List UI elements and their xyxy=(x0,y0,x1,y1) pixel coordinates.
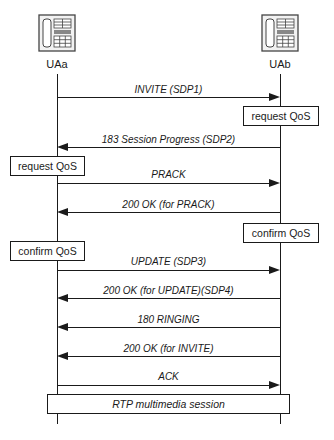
message-label: UPDATE (SDP3) xyxy=(57,256,280,267)
arrowhead-left-icon xyxy=(57,143,68,151)
message-label: ACK xyxy=(57,371,280,382)
actor-label-uaa: UAa xyxy=(37,58,77,70)
message-label: 200 OK (for UPDATE)(SDP4) xyxy=(57,285,280,296)
message-arrow xyxy=(68,147,280,148)
message-arrow xyxy=(68,327,280,328)
arrowhead-right-icon xyxy=(269,266,280,274)
message-label: 200 OK (for PRACK) xyxy=(57,199,280,210)
lifeline-uab xyxy=(280,74,281,424)
rtp-session-box: RTP multimedia session xyxy=(47,394,290,414)
message-label: 200 OK (for INVITE) xyxy=(57,343,280,354)
message-arrow xyxy=(57,385,269,386)
arrowhead-left-icon xyxy=(57,294,68,302)
message-arrow xyxy=(68,298,280,299)
arrowhead-right-icon xyxy=(269,179,280,187)
actor-label-uab: UAb xyxy=(260,58,300,70)
telephone-icon xyxy=(261,14,299,52)
action-box: confirm QoS xyxy=(243,223,319,243)
message-arrow xyxy=(68,212,280,213)
telephone-icon xyxy=(38,14,76,52)
message-label: 180 RINGING xyxy=(57,314,280,325)
message-label: 183 Session Progress (SDP2) xyxy=(57,134,280,145)
arrowhead-right-icon xyxy=(269,381,280,389)
arrowhead-left-icon xyxy=(57,208,68,216)
message-arrow xyxy=(57,97,269,98)
message-arrow xyxy=(68,356,280,357)
action-box: request QoS xyxy=(243,106,319,126)
message-arrow xyxy=(57,183,269,184)
arrowhead-left-icon xyxy=(57,352,68,360)
message-arrow xyxy=(57,270,269,271)
message-label: INVITE (SDP1) xyxy=(57,84,280,95)
arrowhead-left-icon xyxy=(57,323,68,331)
arrowhead-right-icon xyxy=(269,93,280,101)
message-label: PRACK xyxy=(57,169,280,180)
